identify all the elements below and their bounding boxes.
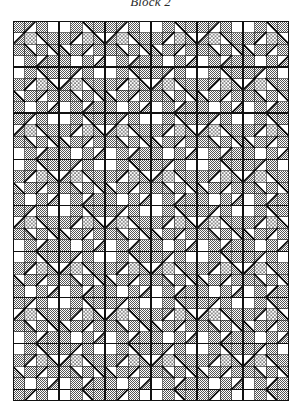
quilt-svg (13, 21, 289, 401)
quilt-diagram (13, 21, 289, 401)
page-canvas: Block 2 (0, 0, 301, 418)
figure-title: Block 2 (0, 0, 301, 10)
